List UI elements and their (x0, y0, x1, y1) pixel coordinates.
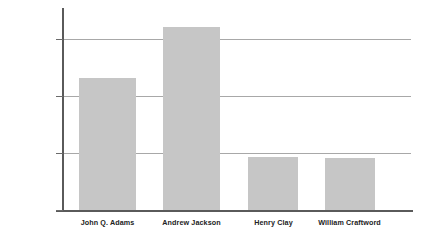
y-tick-mark-150000 (56, 39, 63, 40)
bar-andrew-jackson[interactable] (163, 27, 220, 211)
y-axis-labels: 150,000 100,000 50,000 0 (0, 0, 52, 246)
y-tick-mark-50000 (56, 153, 63, 154)
y-tick-mark-100000 (56, 96, 63, 97)
x-axis-labels: John Q. Adams Andrew Jackson Henry Clay … (63, 216, 411, 236)
bar-william-craftword[interactable] (325, 158, 375, 211)
x-tick-label-john-q-adams: John Q. Adams (63, 218, 152, 227)
bar-chart: 150,000 100,000 50,000 0 John Q. Adams A… (0, 0, 427, 246)
bar-john-q-adams[interactable] (79, 78, 136, 211)
x-axis-line (56, 210, 413, 212)
x-tick-label-william-craftword: William Craftword (305, 218, 394, 227)
bar-henry-clay[interactable] (248, 157, 298, 211)
x-tick-label-andrew-jackson: Andrew Jackson (147, 218, 236, 227)
y-tick-mark-0 (56, 210, 63, 211)
bars-layer (63, 8, 411, 211)
